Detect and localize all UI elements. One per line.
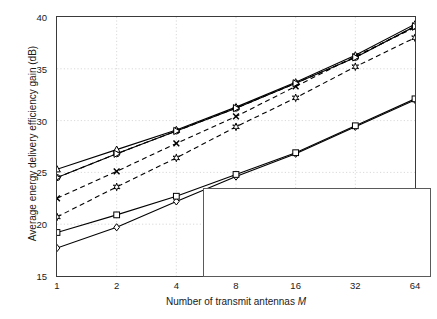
y-axis-label: Average energy delivery efficiency gain … [27,24,38,264]
x-axis-label-symbol: M [298,296,306,307]
chart-figure: 152025303540 1248163264 Average energy d… [0,0,437,319]
y-tick-label: 25 [36,167,52,178]
x-tick-label: 8 [233,280,238,291]
x-axis-label-text: Number of transmit antennas [166,296,298,307]
marker-square [57,230,60,236]
marker-xcross [114,168,120,174]
marker-hexagram [292,94,299,102]
x-tick-label: 64 [410,280,421,291]
marker-square [173,193,179,199]
marker-hexagram [352,63,359,71]
marker-hexagram [57,213,60,221]
x-axis-ticks: 1248163264 [56,280,416,294]
x-tick-label: 32 [350,280,361,291]
marker-xcross [173,141,179,147]
y-tick-label: 30 [36,115,52,126]
marker-square [233,172,239,178]
y-tick-label: 20 [36,219,52,230]
marker-hexagram [233,123,240,131]
marker-diamond [114,224,120,231]
marker-xcross [233,114,239,120]
marker-xcross [57,195,60,201]
y-tick-label: 40 [36,12,52,23]
marker-righttriangle [412,23,415,30]
marker-square [412,96,415,102]
marker-diamond [57,244,60,251]
marker-hexagram [173,154,180,162]
marker-square [352,123,358,129]
y-tick-label: 15 [36,271,52,282]
x-tick-label: 2 [114,280,119,291]
marker-hexagram [412,34,415,42]
y-tick-label: 35 [36,63,52,74]
marker-hexagram [113,183,120,191]
marker-square [114,212,120,218]
x-tick-label: 1 [54,280,59,291]
x-axis-label: Number of transmit antennas M [56,296,416,307]
marker-square [293,150,299,156]
x-tick-label: 4 [174,280,179,291]
x-tick-label: 16 [290,280,301,291]
chart-legend [203,188,431,277]
